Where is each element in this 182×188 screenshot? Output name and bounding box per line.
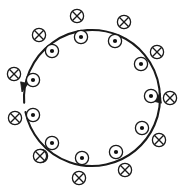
dot-right-upper bbox=[134, 57, 147, 70]
dot-bottom bbox=[75, 151, 88, 164]
cross-right-mid bbox=[163, 91, 176, 104]
dot-top-right bbox=[108, 34, 121, 47]
dot-center bbox=[139, 62, 143, 66]
dot-left-upper bbox=[26, 73, 39, 86]
out-of-page-symbol-layer bbox=[26, 30, 157, 164]
cross-top bbox=[70, 9, 83, 22]
cross-left-mid bbox=[8, 111, 21, 124]
dot-lower-right bbox=[109, 145, 122, 158]
dot-center bbox=[79, 35, 83, 39]
dot-center bbox=[50, 141, 54, 145]
dot-center bbox=[114, 150, 118, 154]
cross-bottom bbox=[72, 171, 85, 184]
dot-top bbox=[74, 30, 87, 43]
dot-center bbox=[80, 156, 84, 160]
dot-lower-left bbox=[45, 136, 58, 149]
cross-top-right bbox=[117, 15, 130, 28]
cross-upper-left bbox=[32, 28, 45, 41]
current-loop-layer bbox=[24, 30, 160, 166]
cross-left-lower bbox=[33, 149, 46, 162]
dot-right-lower bbox=[135, 121, 148, 134]
dot-center bbox=[50, 49, 54, 53]
dot-center bbox=[31, 78, 35, 82]
cross-right-lower bbox=[152, 133, 165, 146]
cross-right-upper bbox=[150, 45, 163, 58]
current-loop-path bbox=[24, 30, 160, 166]
dot-left-mid bbox=[26, 108, 39, 121]
arrowhead-layer bbox=[21, 82, 162, 103]
cross-lower-right bbox=[118, 163, 131, 176]
dot-right-mid bbox=[144, 89, 157, 102]
diagram-canvas bbox=[0, 0, 182, 188]
dot-upper-left bbox=[45, 44, 58, 57]
dot-center bbox=[31, 113, 35, 117]
dot-center bbox=[149, 94, 153, 98]
dot-center bbox=[113, 39, 117, 43]
field-diagram: Circular loop with magnetic field symbol… bbox=[0, 0, 182, 188]
cross-left-upper bbox=[7, 67, 20, 80]
dot-center bbox=[140, 126, 144, 130]
